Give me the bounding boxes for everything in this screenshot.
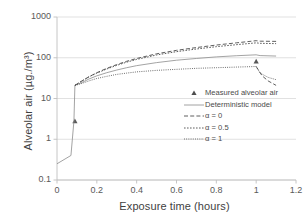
legend-triangle-icon xyxy=(191,90,196,95)
y-tick-label: 10 xyxy=(21,93,51,103)
legend-label: Measured alveolar air xyxy=(205,88,278,98)
y-tick-label: 100 xyxy=(21,52,51,62)
chart-figure: Alveolar air (µg./m³) Exposure time (hou… xyxy=(0,0,307,222)
legend-label: Deterministic model xyxy=(205,100,272,110)
x-tick-label: 0.2 xyxy=(82,185,112,195)
legend-label: α = 0 xyxy=(205,111,222,121)
data-marker-triangle xyxy=(72,118,77,123)
legend-item: Measured alveolar air xyxy=(183,88,299,98)
x-tick-label: 0.6 xyxy=(162,185,192,195)
legend-item: α = 1 xyxy=(183,134,299,144)
y-tick-label: 1 xyxy=(21,133,51,143)
legend-item: Deterministic model xyxy=(183,100,299,110)
chart-legend: Measured alveolar airDeterministic model… xyxy=(183,88,299,146)
series-line xyxy=(75,43,276,86)
y-tick-label: 1000 xyxy=(21,11,51,21)
legend-key-fine-dotted xyxy=(183,134,205,144)
x-tick-label: 1 xyxy=(241,185,271,195)
legend-key-dashed xyxy=(183,111,205,121)
legend-key-dotted xyxy=(183,123,205,133)
x-tick-label: 0 xyxy=(42,185,72,195)
x-axis-title: Exposure time (hours) xyxy=(57,200,292,212)
legend-item: α = 0.5 xyxy=(183,123,299,133)
legend-item: α = 0 xyxy=(183,111,299,121)
legend-label: α = 1 xyxy=(205,134,222,144)
y-tick-label: 0.1 xyxy=(21,174,51,184)
legend-key-solid xyxy=(183,100,205,110)
data-marker-triangle xyxy=(254,59,259,64)
series-line xyxy=(256,67,276,86)
x-tick-label: 0.4 xyxy=(122,185,152,195)
series-line xyxy=(75,41,276,86)
x-tick-label: 1.2 xyxy=(281,185,307,195)
x-tick-label: 0.8 xyxy=(201,185,231,195)
legend-key-triangle xyxy=(183,88,205,98)
legend-label: α = 0.5 xyxy=(205,123,229,133)
